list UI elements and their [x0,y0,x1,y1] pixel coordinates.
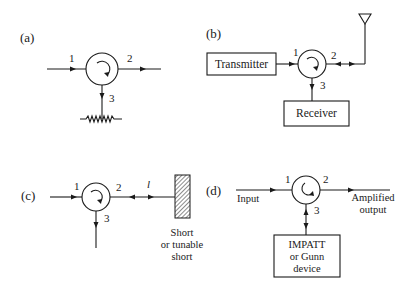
arrow-icon [100,93,105,99]
panel-b-label: (b) [206,26,221,41]
transmitter-label: Transmitter [215,58,268,70]
output-label-line-1: Amplified [351,192,395,203]
port-1-label: 1 [74,180,80,192]
circulator-symbol [86,53,118,85]
resistor-load-icon [80,116,122,122]
panel-a-label: (a) [20,30,34,45]
port-3-label: 3 [109,92,115,104]
arrow-icon [70,67,76,72]
short-label-line-3: short [172,251,193,262]
arrow-icon [289,62,295,67]
arrow-icon [335,62,341,67]
arrow-icon [148,195,154,200]
device-label-line-3: device [293,263,321,274]
rotation-arrow-icon [302,183,312,195]
arrowhead-icon [313,66,318,71]
port-2-label: 2 [116,181,122,193]
arrow-icon [140,67,146,72]
arrow-icon [304,209,309,215]
port-1-label: 1 [285,173,291,185]
device-label-line-1: IMPATT [289,239,327,250]
port-1-label: 1 [69,52,75,64]
circulator-diagram: (a) 1 2 3 (b) Transmitter 1 [0,0,412,291]
circulator-symbol [298,50,326,78]
arrow-icon [94,222,99,228]
antenna-icon [359,14,371,24]
port-3-label: 3 [320,79,326,91]
output-label-line-2: output [360,204,387,215]
arrow-icon [71,195,77,200]
panel-a: (a) 1 2 3 [20,30,161,122]
arrow-icon [129,195,135,200]
port-2-label: 2 [323,173,329,185]
receiver-label: Receiver [296,107,337,119]
panel-c-label: (c) [21,188,35,203]
device-label-line-2: or Gunn [290,251,325,262]
panel-b: (b) Transmitter 1 2 3 Receiver [206,14,371,126]
short-label-line-2: or tunable [161,239,204,250]
port-3-label: 3 [314,204,320,216]
port-2-label: 2 [127,52,133,64]
arrowhead-icon [104,72,109,77]
input-label: Input [237,193,259,204]
port-2-label: 2 [331,49,337,61]
circulator-symbol [82,183,110,211]
arrow-icon [270,188,276,193]
arrow-icon [304,223,309,229]
port-3-label: 3 [104,212,110,224]
panel-c: (c) 1 2 l Short or tunable short 3 [21,175,203,262]
panel-d-label: (d) [206,183,221,198]
panel-d: (d) Input 1 2 Amplified output 3 IMPATT … [206,173,395,277]
arrow-icon [310,84,315,90]
short-label-line-1: Short [171,227,194,238]
port-1-label: 1 [293,46,299,58]
arrowhead-icon [97,199,102,204]
short-circuit-wall-icon [175,175,190,218]
arrow-icon [349,62,355,67]
length-symbol: l [147,178,150,190]
circulator-symbol [292,176,320,204]
